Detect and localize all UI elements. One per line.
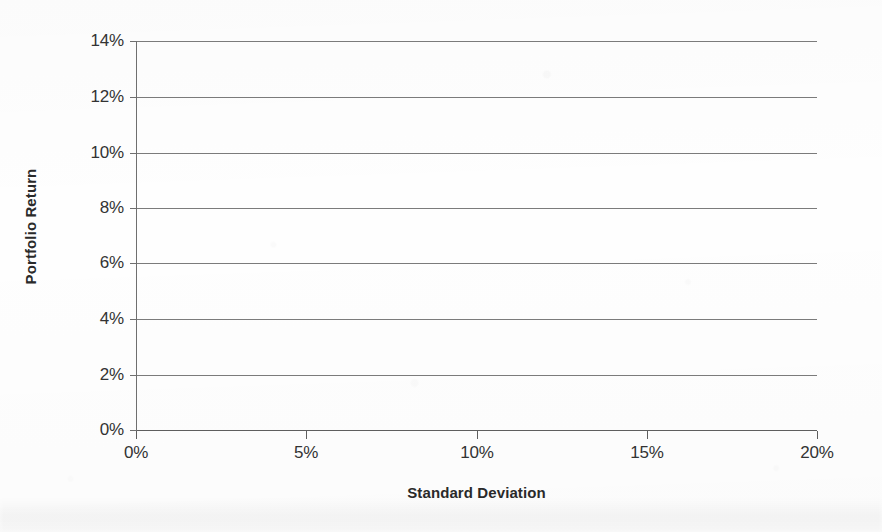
y-tick-2pct [130, 375, 137, 376]
y-tick-8pct [130, 208, 137, 209]
chart-screenshot: 14% 12% 10% 8% 6% 4% 2% 0% 0% 5% 10% 15%… [0, 0, 882, 532]
x-tick-5pct [306, 431, 307, 439]
y-axis-line [136, 41, 137, 431]
y-tick-4pct [130, 319, 137, 320]
y-tick-label-8pct: 8% [54, 198, 124, 218]
y-tick-label-12pct: 12% [54, 87, 124, 107]
x-tick-20pct [817, 431, 818, 439]
x-tick-label-0pct: 0% [96, 443, 176, 463]
x-tick-10pct [477, 431, 478, 439]
portfolio-risk-return-chart: 14% 12% 10% 8% 6% 4% 2% 0% 0% 5% 10% 15%… [0, 0, 882, 532]
y-axis-title: Portfolio Return [22, 137, 39, 317]
x-tick-label-5pct: 5% [266, 443, 346, 463]
y-tick-label-2pct: 2% [54, 365, 124, 385]
y-tick-label-6pct: 6% [54, 253, 124, 273]
y-tick-label-0pct: 0% [54, 420, 124, 440]
y-tick-12pct [130, 97, 137, 98]
data-series-layer [136, 41, 817, 430]
x-tick-0pct [136, 431, 137, 439]
x-tick-label-20pct: 20% [777, 443, 857, 463]
y-tick-10pct [130, 153, 137, 154]
x-tick-15pct [647, 431, 648, 439]
y-tick-label-14pct: 14% [54, 31, 124, 51]
x-axis-title: Standard Deviation [136, 484, 817, 501]
y-tick-14pct [130, 41, 137, 42]
y-tick-label-4pct: 4% [54, 309, 124, 329]
x-tick-label-15pct: 15% [607, 443, 687, 463]
y-tick-label-10pct: 10% [54, 143, 124, 163]
x-tick-label-10pct: 10% [437, 443, 517, 463]
y-tick-6pct [130, 263, 137, 264]
